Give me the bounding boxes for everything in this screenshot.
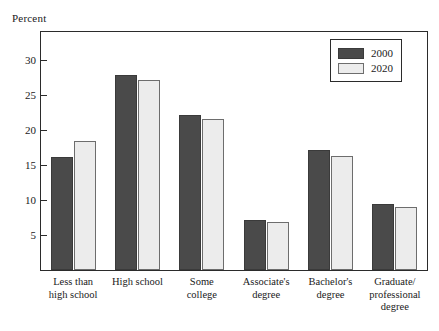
legend-label-2000: 2000 <box>371 47 393 59</box>
x-axis-label-line: Graduate/ <box>358 276 432 289</box>
bar-2020-5 <box>395 207 417 270</box>
x-axis-label-line: college <box>165 289 239 302</box>
x-axis-label-4: Bachelor'sdegree <box>294 276 368 301</box>
x-axis-label-line: degree <box>229 289 303 302</box>
bar-2020-4 <box>331 156 353 270</box>
bar-2000-3 <box>244 220 266 270</box>
x-axis-label-line: high school <box>36 289 110 302</box>
x-axis-label-3: Associate'sdegree <box>229 276 303 301</box>
bar-2000-1 <box>115 75 137 270</box>
y-axis-tick-label: 5 <box>12 229 36 241</box>
bar-2020-1 <box>138 80 160 270</box>
y-axis-title: Percent <box>12 12 46 24</box>
x-axis-label-line: High school <box>101 276 175 289</box>
light-filled-swatch-icon <box>338 63 364 74</box>
bar-2020-2 <box>202 119 224 270</box>
y-axis-tick-label: 10 <box>12 194 36 206</box>
bar-chart: Percent 30252015105 Less thanhigh school… <box>0 0 439 331</box>
x-axis-label-line: Bachelor's <box>294 276 368 289</box>
x-axis-label-line: Associate's <box>229 276 303 289</box>
bar-2020-0 <box>74 141 96 271</box>
bar-2020-3 <box>267 222 289 270</box>
y-axis-tick-label: 15 <box>12 159 36 171</box>
x-axis-label-line: degree <box>358 301 432 314</box>
x-axis-label-line: Less than <box>36 276 110 289</box>
bar-2000-2 <box>179 115 201 270</box>
legend-item-2020: 2020 <box>338 61 393 75</box>
bar-2000-0 <box>51 157 73 270</box>
x-axis-label-5: Graduate/professionaldegree <box>358 276 432 314</box>
x-axis-label-line: professional <box>358 289 432 302</box>
bar-2000-4 <box>308 150 330 270</box>
y-axis-tick-label: 25 <box>12 89 36 101</box>
dark-filled-swatch-icon <box>338 48 364 59</box>
x-axis-label-line: degree <box>294 289 368 302</box>
y-axis-tick-label: 20 <box>12 124 36 136</box>
y-axis-tick-label: 30 <box>12 54 36 66</box>
bar-2000-5 <box>372 204 394 270</box>
chart-legend: 2000 2020 <box>330 39 402 82</box>
x-axis-label-1: High school <box>101 276 175 289</box>
legend-label-2020: 2020 <box>371 62 393 74</box>
x-axis-label-0: Less thanhigh school <box>36 276 110 301</box>
x-axis-label-2: Somecollege <box>165 276 239 301</box>
x-axis-label-line: Some <box>165 276 239 289</box>
legend-item-2000: 2000 <box>338 46 393 60</box>
